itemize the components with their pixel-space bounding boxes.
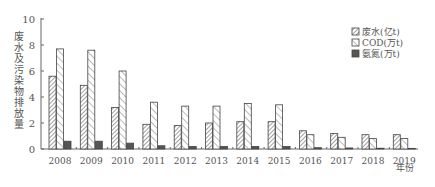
bar <box>143 124 150 149</box>
bar <box>252 146 259 149</box>
bar <box>112 107 119 149</box>
legend-label: COD(万t) <box>362 38 403 48</box>
x-tick-label: 2014 <box>236 156 259 166</box>
legend-label: 氨氮(万t) <box>362 48 400 59</box>
y-tick-label: 4 <box>29 92 35 103</box>
bars <box>49 49 415 149</box>
bar <box>189 146 196 149</box>
x-tick-label: 2012 <box>174 156 197 166</box>
y-axis-label: 废水及污染物排放量 <box>14 30 24 130</box>
bar <box>244 104 251 150</box>
bar <box>237 122 244 149</box>
bar <box>221 146 228 149</box>
x-tick-label: 2015 <box>268 156 291 166</box>
x-tick-label: 2009 <box>80 156 103 166</box>
bar-chart: 0246810200820092010201120122013201420152… <box>0 0 435 187</box>
bar <box>283 146 290 149</box>
bar <box>158 146 165 149</box>
x-tick-label: 2017 <box>330 156 353 166</box>
bar <box>88 50 95 149</box>
bar <box>57 49 64 149</box>
bar <box>80 85 87 149</box>
bar <box>174 126 181 149</box>
chart-canvas: 0246810200820092010201120122013201420152… <box>0 0 435 187</box>
bar <box>362 135 369 149</box>
legend: 废水(亿t)COD(万t)氨氮(万t) <box>352 26 403 59</box>
x-tick-label: 2010 <box>111 156 134 166</box>
bar <box>370 139 377 149</box>
y-tick-label: 10 <box>22 14 35 25</box>
bar <box>182 106 189 149</box>
x-tick-label: 2008 <box>49 156 72 166</box>
bar <box>213 106 220 149</box>
legend-swatch <box>352 39 359 46</box>
bar <box>338 137 345 149</box>
x-tick-label: 2018 <box>362 156 385 166</box>
bar <box>95 141 102 149</box>
bar <box>206 123 213 149</box>
y-tick-label: 0 <box>29 144 35 155</box>
y-tick-label: 2 <box>29 118 35 129</box>
x-axis-label: 年份 <box>396 162 414 173</box>
legend-swatch <box>352 50 359 57</box>
bar <box>150 102 157 149</box>
bar <box>346 148 353 149</box>
bar <box>299 131 306 149</box>
bar <box>401 139 408 149</box>
bar <box>268 122 275 149</box>
y-tick-label: 8 <box>29 40 35 51</box>
bar <box>408 148 415 149</box>
bar <box>49 76 56 149</box>
x-tick-label: 2013 <box>205 156 228 166</box>
legend-swatch <box>352 28 359 35</box>
bar <box>307 135 314 149</box>
bar <box>377 148 384 149</box>
bar <box>393 135 400 149</box>
bar <box>276 105 283 149</box>
bar <box>127 143 134 149</box>
bar <box>331 133 338 149</box>
x-tick-label: 2016 <box>299 156 322 166</box>
legend-label: 废水(亿t) <box>362 26 400 37</box>
x-tick-label: 2011 <box>142 156 165 166</box>
bar <box>119 71 126 149</box>
y-tick-label: 6 <box>29 66 35 77</box>
bar <box>64 141 71 149</box>
bar <box>314 148 321 149</box>
